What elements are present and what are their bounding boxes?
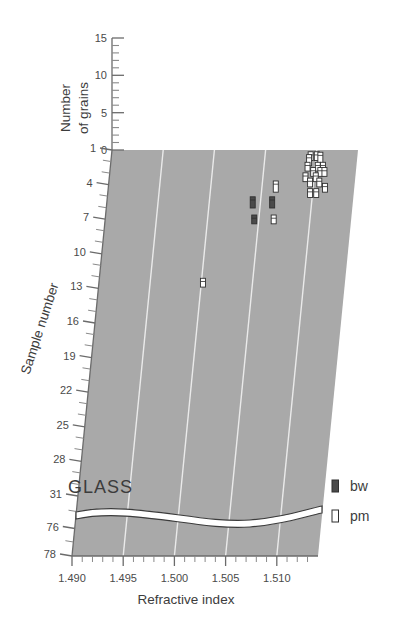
scatter-plot-svg: 0 5 10 15 Number of grains xyxy=(0,0,400,618)
sample-tick-28: 28 xyxy=(53,453,65,465)
sample-tick-19: 19 xyxy=(63,350,75,362)
sample-tick-10: 10 xyxy=(74,246,86,258)
ri-tick-1510: 1.510 xyxy=(263,572,291,584)
glass-annotation: GLASS xyxy=(68,477,133,497)
sample-tick-76: 76 xyxy=(47,521,59,533)
refractive-index-axis-title: Refractive index xyxy=(138,592,235,607)
legend: bw pm xyxy=(332,478,369,524)
sample-tick-22: 22 xyxy=(60,384,72,396)
legend-label-bw: bw xyxy=(350,478,369,494)
sample-tick-78: 78 xyxy=(44,548,56,560)
grains-tick-15: 15 xyxy=(95,32,107,44)
ri-tick-1495: 1.495 xyxy=(109,572,137,584)
legend-swatch-pm xyxy=(332,510,339,522)
grains-axis: 0 5 10 15 Number of grains xyxy=(58,32,124,156)
sample-tick-4: 4 xyxy=(86,177,92,189)
sample-tick-1: 1 xyxy=(90,142,96,154)
legend-label-pm: pm xyxy=(350,508,369,524)
grains-tick-0: 0 xyxy=(101,144,107,156)
data-point-bw xyxy=(270,197,275,208)
data-point-pm xyxy=(322,168,327,177)
grains-axis-title-line1: Number xyxy=(58,83,73,132)
grains-tick-5: 5 xyxy=(101,107,107,119)
data-point-bw xyxy=(252,215,257,224)
legend-swatch-bw xyxy=(332,480,339,492)
grains-tick-10: 10 xyxy=(95,69,107,81)
data-point-pm xyxy=(317,178,322,187)
data-point-pm xyxy=(308,189,313,198)
ri-tick-1500: 1.500 xyxy=(161,572,189,584)
data-point-pm xyxy=(322,183,327,192)
refractive-index-axis: 1.490 1.495 1.500 1.505 1.510 Refractive… xyxy=(58,556,318,607)
data-point-pm xyxy=(200,278,205,287)
ri-tick-1505: 1.505 xyxy=(212,572,240,584)
data-point-pm xyxy=(314,189,319,198)
sample-tick-7: 7 xyxy=(83,211,89,223)
ri-tick-1490: 1.490 xyxy=(58,572,86,584)
sample-tick-25: 25 xyxy=(57,419,69,431)
data-point-pm xyxy=(308,178,313,187)
chart-figure: 0 5 10 15 Number of grains xyxy=(0,0,400,618)
sample-tick-31: 31 xyxy=(50,488,62,500)
grains-axis-title-line2: of grains xyxy=(76,82,91,134)
sample-number-axis-title: Sample number xyxy=(18,281,62,377)
data-point-bw xyxy=(250,197,255,208)
data-point-pm xyxy=(271,215,276,224)
sample-tick-16: 16 xyxy=(67,315,79,327)
data-point-pm xyxy=(305,162,310,171)
data-point-pm xyxy=(273,181,278,192)
sample-tick-13: 13 xyxy=(70,280,82,292)
